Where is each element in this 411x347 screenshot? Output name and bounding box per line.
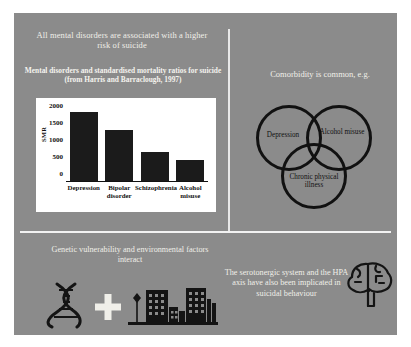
chart-bar [105,130,133,181]
city-icon [128,285,218,329]
venn-label-chronic-physical-illness: Chronic physical illness [288,173,340,190]
bar-chart: SMR 0500100015002000DepressionBipolar di… [36,98,216,212]
chart-y-tick: 0 [60,170,64,178]
dna-icon [46,281,86,329]
chart-y-tick: 1000 [49,136,63,144]
serotonergic-system-title: The serotonergic system and the HPA axis… [219,268,354,299]
plus-icon [94,293,122,321]
chart-x-tick-label: Alcohol misuse [171,184,211,199]
chart-x-tick-label: Schizophrenia [135,184,175,192]
venn-label-depression: Depression [252,131,314,139]
chart-x-tick-label: Depression [64,184,104,192]
chart-caption: Mental disorders and standardised mortal… [24,67,222,85]
genetic-vulnerability-title: Genetic vulnerability and environmental … [40,245,220,264]
chart-y-tick: 2000 [49,102,63,110]
brain-icon [344,261,396,309]
chart-y-axis-label: SMR [40,127,47,142]
chart-x-tick-label: Bipolar disorder [100,184,140,199]
venn-diagram: Depression Alcohol misuse Chronic physic… [250,91,390,219]
chart-bar [176,160,204,180]
comorbidity-title: Comorbidity is common, e.g. [236,69,404,79]
slide-canvas: All mental disorders are associated with… [14,13,397,335]
page-title: All mental disorders are associated with… [30,30,214,50]
chart-bar [70,112,98,181]
vertical-divider [228,29,230,231]
chart-x-axis [66,181,208,182]
chart-y-tick: 500 [53,153,64,161]
chart-y-tick: 1500 [49,119,63,127]
chart-plot-area: 0500100015002000DepressionBipolar disord… [66,106,208,182]
chart-bar [141,152,169,181]
venn-label-alcohol-misuse: Alcohol misuse [318,128,366,136]
horizontal-divider [20,231,391,233]
